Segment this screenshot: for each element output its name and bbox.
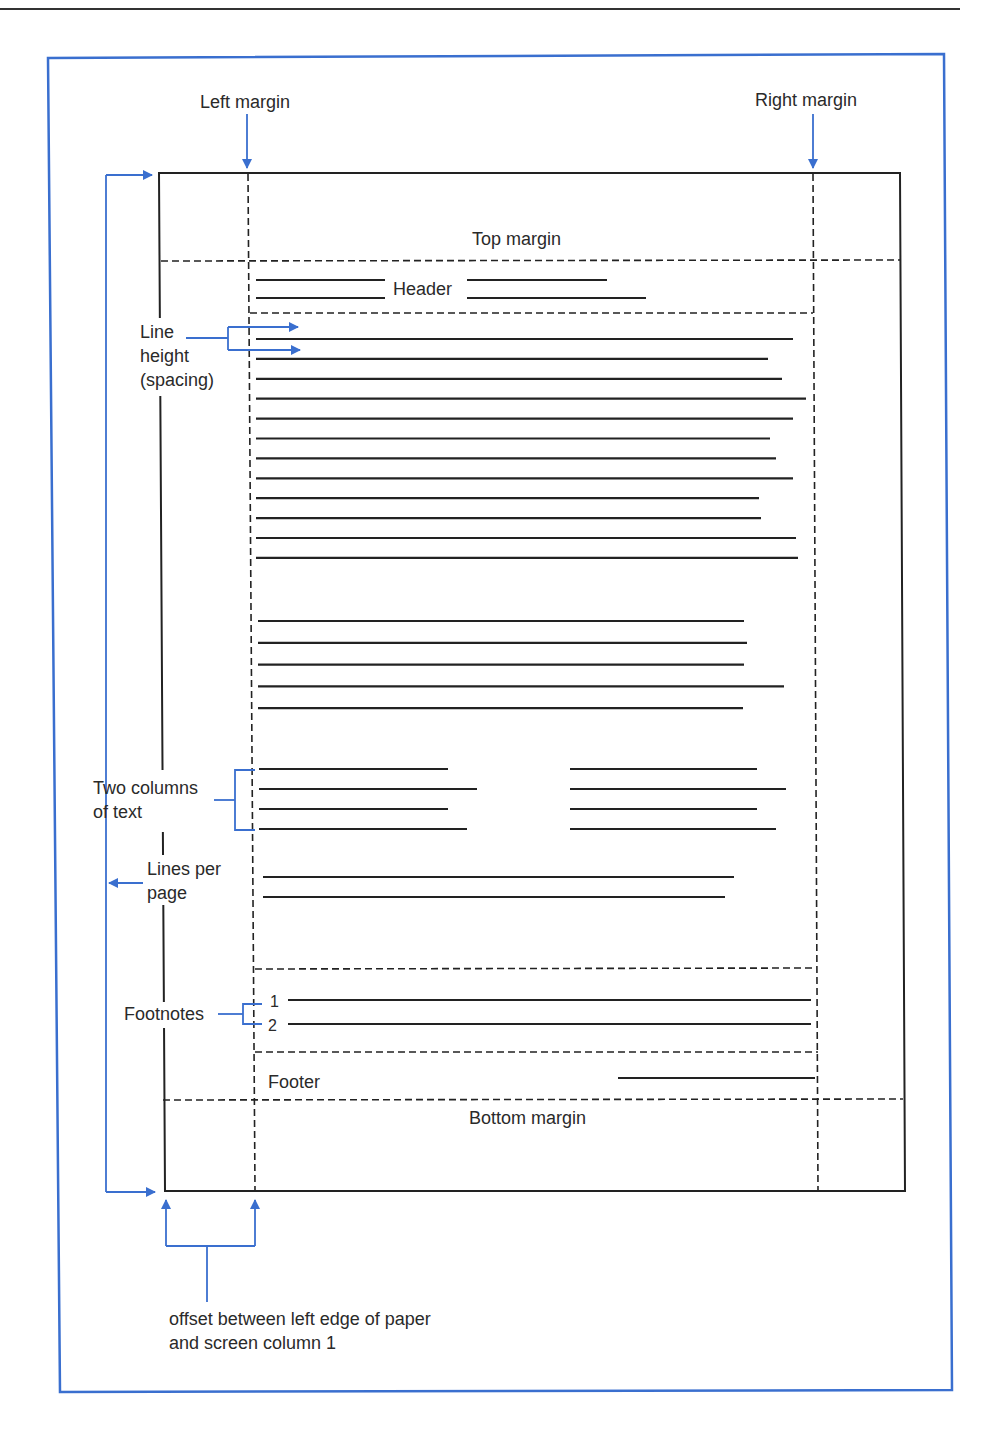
- paper-outline: [159, 173, 905, 1191]
- line-height-label-3: (spacing): [140, 368, 214, 392]
- two-column-left: [259, 769, 477, 829]
- line-height-label-1: Line: [140, 320, 174, 344]
- two-columns-label-1: Two columns: [93, 776, 198, 800]
- right-margin-line: [813, 174, 818, 1190]
- body-text-block-2: [258, 621, 784, 708]
- header-label: Header: [393, 277, 452, 301]
- page-layout-diagram: [0, 0, 988, 1434]
- footnote-top-line: [255, 968, 813, 969]
- body-text-block-3: [263, 877, 734, 897]
- footnotes-label: Footnotes: [124, 1002, 204, 1026]
- lines-per-page-label-1: Lines per: [147, 857, 221, 881]
- body-text-block-1: [256, 339, 806, 558]
- footnote-number-2: 2: [268, 1014, 277, 1038]
- footnote-lines: [288, 1000, 811, 1024]
- offset-label-2: and screen column 1: [169, 1331, 336, 1355]
- two-column-right: [570, 769, 786, 829]
- two-columns-label-2: of text: [93, 800, 142, 824]
- left-margin-label: Left margin: [200, 90, 290, 114]
- line-height-label-2: height: [140, 344, 189, 368]
- lines-per-page-label-2: page: [147, 881, 187, 905]
- bottom-margin-label: Bottom margin: [469, 1106, 586, 1130]
- offset-label-1: offset between left edge of paper: [169, 1307, 431, 1331]
- top-margin-label: Top margin: [472, 227, 561, 251]
- top-margin-line: [161, 260, 900, 261]
- right-margin-label: Right margin: [755, 88, 857, 112]
- footer-label: Footer: [268, 1070, 320, 1094]
- footnote-number-1: 1: [270, 990, 279, 1014]
- bottom-margin-line: [163, 1099, 903, 1100]
